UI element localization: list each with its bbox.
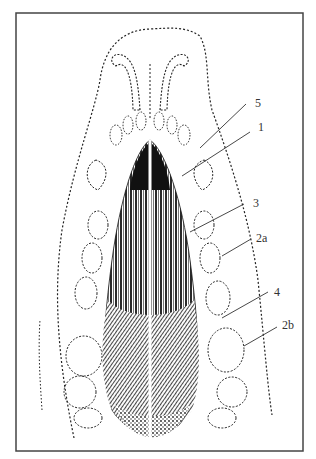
leader-line-2b <box>244 327 277 346</box>
leader-line-1 <box>182 132 250 176</box>
right-molar-lobes <box>194 160 247 428</box>
left-molar-lobes <box>64 160 108 428</box>
leader-line-3 <box>190 204 244 232</box>
labels: 5132a42b <box>182 96 294 346</box>
label-2a: 2a <box>256 231 268 245</box>
left-side-line <box>39 320 42 410</box>
label-2b: 2b <box>282 318 294 332</box>
label-3: 3 <box>253 196 259 210</box>
leader-line-5 <box>200 104 246 148</box>
left-nasal-flap <box>112 54 140 110</box>
anatomical-figure: 5132a42b <box>0 0 316 459</box>
label-5: 5 <box>255 96 261 110</box>
right-nasal-flap <box>160 54 188 110</box>
leader-line-2a <box>222 239 251 256</box>
label-1: 1 <box>258 120 264 134</box>
label-4: 4 <box>274 285 280 299</box>
